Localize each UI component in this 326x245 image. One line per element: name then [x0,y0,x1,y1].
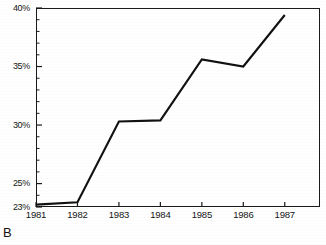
x-tick-label-1984: 1984 [150,209,170,220]
y-axis-minor-ticks [36,20,40,196]
panel-caption: B [3,226,12,240]
plot-area [36,8,320,207]
y-tick-label-25: 25% [13,179,30,188]
data-line-series-percent [36,15,285,205]
x-axis-tick-labels: 1981198219831984198519861987 [0,209,326,225]
y-tick-label-30: 30% [13,121,30,130]
x-tick-label-1986: 1986 [233,209,253,220]
x-tick-label-1983: 1983 [109,209,129,220]
y-tick-label-40: 40% [13,4,30,13]
x-tick-label-1985: 1985 [192,209,212,220]
x-tick-label-1982: 1982 [67,209,87,220]
figure-panel-b: 40% 35% 30% 25% 23% 19811982198319841985… [0,0,326,245]
x-tick-label-1981: 1981 [26,209,46,220]
y-tick-label-35: 35% [13,62,30,71]
x-tick-label-1987: 1987 [275,209,295,220]
y-axis-major-ticks [36,8,42,207]
